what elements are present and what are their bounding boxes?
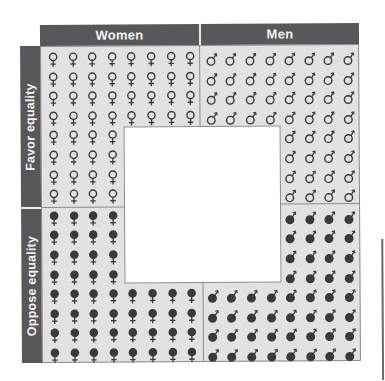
female-symbol-icon <box>67 289 81 305</box>
male-symbol-icon <box>304 248 318 264</box>
male-symbol-icon <box>225 90 239 106</box>
female-symbol-icon <box>85 52 99 68</box>
header-divider <box>199 24 201 45</box>
female-symbol-icon <box>106 289 120 305</box>
male-symbol-icon <box>343 128 357 144</box>
male-symbol-icon <box>304 307 318 323</box>
female-symbol-icon <box>48 348 62 364</box>
male-symbol-icon <box>226 308 240 324</box>
female-symbol-icon <box>47 150 61 166</box>
male-symbol-icon <box>323 187 337 203</box>
row-header-favor: Favor equality <box>20 46 41 207</box>
male-symbol-icon <box>226 327 240 343</box>
female-symbol-icon <box>46 111 60 127</box>
male-symbol-icon <box>323 148 337 164</box>
female-symbol-icon <box>106 189 120 205</box>
female-symbol-icon <box>86 150 100 166</box>
female-symbol-icon <box>47 211 61 227</box>
male-symbol-icon <box>304 168 318 184</box>
male-symbol-icon <box>303 70 317 86</box>
male-symbol-icon <box>343 248 357 264</box>
male-symbol-icon <box>205 51 219 67</box>
female-symbol-icon <box>66 130 80 146</box>
male-symbol-icon <box>303 148 317 164</box>
male-symbol-icon <box>342 109 356 125</box>
male-symbol-icon <box>225 70 239 86</box>
female-symbol-icon <box>107 328 121 344</box>
male-symbol-icon <box>205 110 219 126</box>
male-symbol-icon <box>323 70 337 86</box>
male-symbol-icon <box>303 129 317 145</box>
female-symbol-icon <box>66 169 80 185</box>
male-symbol-icon <box>305 346 319 362</box>
female-symbol-icon <box>86 91 100 107</box>
male-symbol-icon <box>265 307 279 323</box>
female-symbol-icon <box>125 110 139 126</box>
center-blank <box>124 126 282 284</box>
male-symbol-icon <box>246 288 260 304</box>
female-symbol-icon <box>47 130 61 146</box>
female-symbol-icon <box>105 149 119 165</box>
female-symbol-icon <box>185 308 199 324</box>
male-symbol-icon <box>323 129 337 145</box>
female-symbol-icon <box>105 110 119 126</box>
female-symbol-icon <box>146 328 160 344</box>
column-header-men: Men <box>201 23 359 45</box>
female-symbol-icon <box>66 91 80 107</box>
female-symbol-icon <box>48 289 62 305</box>
row-header-favor-label: Favor equality <box>23 83 38 171</box>
female-symbol-icon <box>126 328 140 344</box>
female-symbol-icon <box>105 51 119 67</box>
male-symbol-icon <box>305 327 319 343</box>
female-symbol-icon <box>124 51 138 67</box>
male-symbol-icon <box>343 268 357 284</box>
male-symbol-icon <box>264 51 278 67</box>
male-symbol-icon <box>304 268 318 284</box>
male-symbol-icon <box>344 326 358 342</box>
female-symbol-icon <box>47 169 61 185</box>
female-symbol-icon <box>184 90 198 106</box>
female-symbol-icon <box>47 230 61 246</box>
female-symbol-icon <box>48 309 62 325</box>
male-symbol-icon <box>343 148 357 164</box>
male-symbol-icon <box>285 327 299 343</box>
female-symbol-icon <box>106 249 120 265</box>
column-header-women: Women <box>40 24 199 46</box>
male-symbol-icon <box>343 228 357 244</box>
male-symbol-icon <box>265 288 279 304</box>
male-symbol-icon <box>324 346 338 362</box>
female-symbol-icon <box>126 347 140 363</box>
female-symbol-icon <box>87 289 101 305</box>
female-symbol-icon <box>164 51 178 67</box>
male-symbol-icon <box>284 168 298 184</box>
female-symbol-icon <box>87 328 101 344</box>
male-symbol-icon <box>284 248 298 264</box>
male-symbol-icon <box>304 209 318 225</box>
edge-line <box>381 239 384 380</box>
female-symbol-icon <box>106 210 120 226</box>
female-symbol-icon <box>86 250 100 266</box>
female-symbol-icon <box>105 91 119 107</box>
male-symbol-icon <box>246 327 260 343</box>
female-symbol-icon <box>86 189 100 205</box>
female-symbol-icon <box>144 110 158 126</box>
female-symbol-icon <box>87 269 101 285</box>
female-symbol-icon <box>47 250 61 266</box>
female-symbol-icon <box>125 71 139 87</box>
male-symbol-icon <box>207 327 221 343</box>
male-symbol-icon <box>285 307 299 323</box>
male-symbol-icon <box>284 129 298 145</box>
female-symbol-icon <box>46 71 60 87</box>
female-symbol-icon <box>165 288 179 304</box>
male-symbol-icon <box>324 268 338 284</box>
female-symbol-icon <box>67 189 81 205</box>
male-symbol-icon <box>324 229 338 245</box>
male-symbol-icon <box>265 327 279 343</box>
male-symbol-icon <box>324 307 338 323</box>
male-symbol-icon <box>304 187 318 203</box>
male-symbol-icon <box>206 308 220 324</box>
row-header-oppose: Oppose equality <box>21 209 42 363</box>
female-symbol-icon <box>106 169 120 185</box>
female-symbol-icon <box>105 71 119 87</box>
male-symbol-icon <box>323 109 337 125</box>
